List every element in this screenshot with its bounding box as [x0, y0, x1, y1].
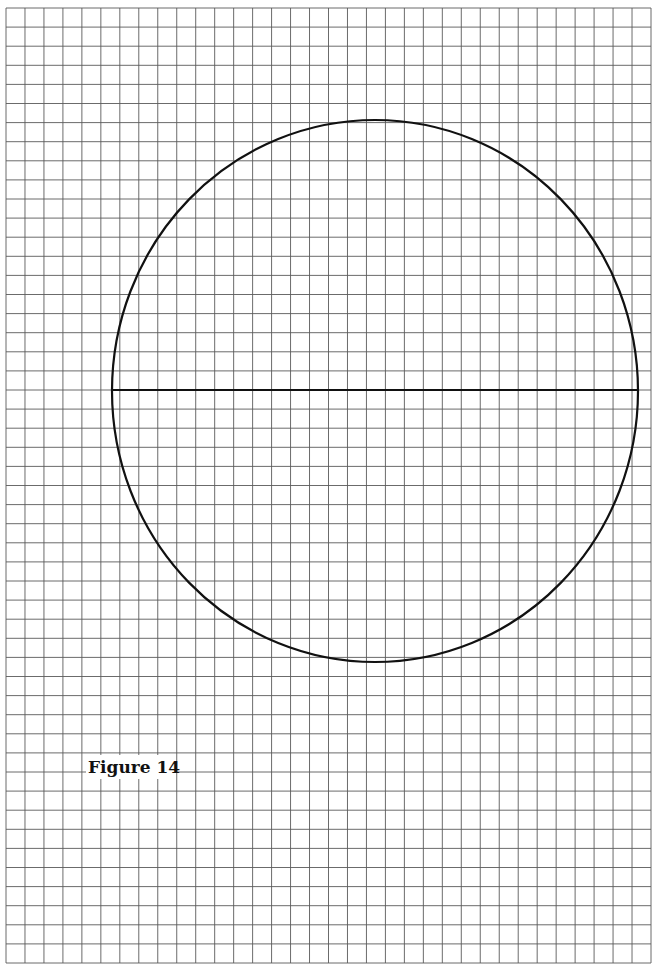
grid-paper-figure: Figure 14 [0, 0, 661, 971]
grid [6, 8, 651, 963]
figure-label: Figure 14 [88, 757, 180, 777]
